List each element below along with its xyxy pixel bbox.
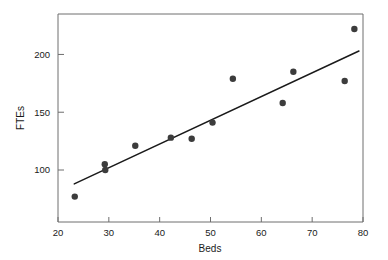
data-point <box>102 161 108 167</box>
data-point <box>342 78 348 84</box>
data-point <box>188 136 194 142</box>
y-tick-label: 200 <box>34 49 50 60</box>
data-point <box>209 119 215 125</box>
axes-frame <box>58 14 363 222</box>
figure-container: 100150200 20304050607080 Beds FTEs <box>0 0 388 260</box>
axes-spines <box>58 14 363 222</box>
scatter-plot: 100150200 20304050607080 Beds FTEs <box>0 0 388 260</box>
x-tick-label: 20 <box>53 227 64 238</box>
data-points <box>72 26 358 200</box>
data-point <box>132 143 138 149</box>
x-tick-label: 40 <box>154 227 165 238</box>
x-tick-label: 30 <box>104 227 115 238</box>
fit-line <box>74 51 359 184</box>
data-point <box>72 193 78 199</box>
data-point <box>279 100 285 106</box>
y-axis-title: FTEs <box>15 106 26 130</box>
data-point <box>290 69 296 75</box>
regression-line <box>74 51 359 184</box>
data-point <box>168 134 174 140</box>
data-point <box>351 26 357 32</box>
x-tick-label: 70 <box>307 227 318 238</box>
y-tick-label: 150 <box>34 107 50 118</box>
y-axis-ticks: 100150200 <box>34 49 64 176</box>
y-tick-label: 100 <box>34 164 50 175</box>
x-tick-label: 50 <box>205 227 216 238</box>
x-tick-label: 60 <box>256 227 267 238</box>
data-point <box>230 76 236 82</box>
x-tick-label: 80 <box>358 227 369 238</box>
x-axis-ticks: 20304050607080 <box>53 217 369 238</box>
data-point <box>102 167 108 173</box>
x-axis-title: Beds <box>199 243 222 254</box>
